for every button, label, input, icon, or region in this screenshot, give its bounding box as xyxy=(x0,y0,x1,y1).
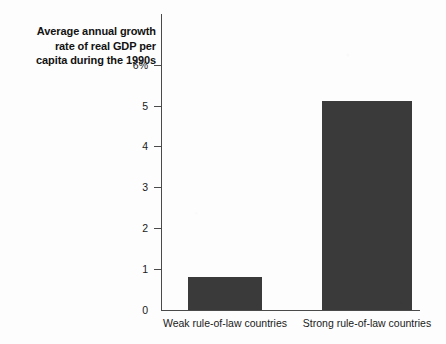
bar-chart-figure: Average annual growth rate of real GDP p… xyxy=(0,0,446,344)
y-tick-label-0: 0 xyxy=(104,305,148,315)
y-tick-mark-6 xyxy=(154,65,161,66)
y-axis-tick-labels: 0123456% xyxy=(100,0,148,344)
y-tick-mark-5 xyxy=(154,106,161,107)
y-tick-label-4: 4 xyxy=(104,141,148,151)
y-tick-mark-1 xyxy=(154,269,161,270)
y-tick-label-2: 2 xyxy=(104,223,148,233)
bar-1 xyxy=(322,101,412,310)
y-tick-label-1: 1 xyxy=(104,264,148,274)
y-tick-mark-4 xyxy=(154,146,161,147)
plot-area xyxy=(162,14,420,310)
bar-0 xyxy=(188,277,262,310)
y-tick-label-5: 5 xyxy=(104,101,148,111)
y-tick-label-6: 6% xyxy=(104,60,148,70)
y-tick-label-3: 3 xyxy=(104,182,148,192)
x-axis-line xyxy=(161,310,420,311)
category-label-1: Strong rule-of-law countries xyxy=(277,317,446,329)
y-tick-mark-3 xyxy=(154,187,161,188)
y-tick-mark-2 xyxy=(154,228,161,229)
